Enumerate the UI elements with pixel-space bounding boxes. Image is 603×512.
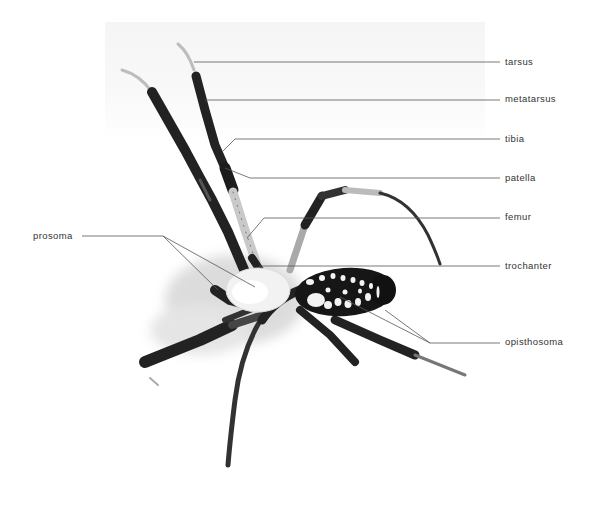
label-metatarsus: metatarsus: [505, 93, 556, 105]
prosoma-body: [226, 268, 290, 312]
opisthosoma-body: [293, 265, 396, 320]
spider-illustration: [0, 0, 603, 512]
label-opisthosoma: opisthosoma: [505, 336, 563, 348]
label-femur: femur: [505, 211, 531, 223]
label-prosoma: prosoma: [33, 230, 73, 242]
leader-femur: [247, 218, 500, 238]
label-tibia: tibia: [505, 133, 524, 145]
label-patella: patella: [505, 172, 536, 184]
label-tarsus: tarsus: [505, 56, 533, 68]
leader-branch-opisthosoma: [385, 310, 430, 343]
leader-tibia: [222, 139, 500, 152]
leader-patella: [225, 168, 500, 178]
leg-mid-right: [300, 310, 355, 362]
label-trochanter: trochanter: [505, 260, 552, 272]
spider-anatomy-diagram: tarsus metatarsus tibia patella femur tr…: [0, 0, 603, 512]
leg-arched-right: [290, 190, 440, 270]
leg-rear-right: [335, 320, 465, 375]
